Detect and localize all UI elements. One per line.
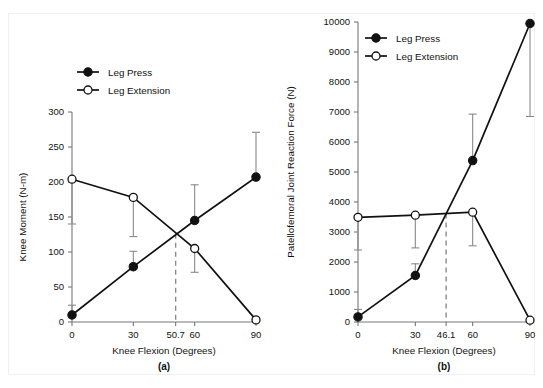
- x-axis-title: Knee Flexion (Degrees): [392, 345, 495, 356]
- filled-circle-marker: [354, 313, 362, 321]
- series-line-2: [72, 179, 256, 320]
- filled-circle-marker: [526, 19, 534, 27]
- y-tick-label: 4000: [329, 196, 350, 207]
- y-tick-label: 7000: [329, 106, 350, 117]
- open-circle-marker: [84, 86, 92, 94]
- filled-circle-marker: [468, 156, 476, 164]
- y-tick-label: 2000: [329, 256, 350, 267]
- x-tick-label: 90: [251, 329, 262, 340]
- x-tick-label: 46.1: [437, 329, 456, 340]
- series-line-1: [72, 177, 256, 315]
- y-tick-label: 9000: [329, 46, 350, 57]
- filled-circle-marker: [372, 34, 380, 42]
- y-tick-label: 1000: [329, 286, 350, 297]
- chart-panel-a: 05010015020025030003050.76090Knee Flexio…: [0, 0, 272, 388]
- panel-label: (b): [438, 361, 451, 372]
- open-circle-marker: [252, 316, 260, 324]
- y-tick-label: 10000: [324, 16, 350, 27]
- y-tick-label: 0: [345, 316, 350, 327]
- y-tick-label: 200: [48, 176, 64, 187]
- y-tick-label: 5000: [329, 166, 350, 177]
- open-circle-marker: [354, 213, 362, 221]
- filled-circle-marker: [252, 173, 260, 181]
- y-tick-label: 250: [48, 141, 64, 152]
- y-tick-label: 6000: [329, 136, 350, 147]
- x-tick-label: 30: [410, 329, 421, 340]
- filled-circle-marker: [84, 68, 92, 76]
- figure-container: 05010015020025030003050.76090Knee Flexio…: [0, 0, 543, 388]
- series-line-2: [358, 212, 530, 320]
- y-tick-label: 100: [48, 246, 64, 257]
- x-axis-title: Knee Flexion (Degrees): [112, 345, 215, 356]
- y-axis-title: Patellofemoral Joint Reaction Force (N): [285, 86, 296, 258]
- x-tick-label: 90: [525, 329, 536, 340]
- filled-circle-marker: [129, 263, 137, 271]
- open-circle-marker: [372, 52, 380, 60]
- x-tick-label: 60: [467, 329, 478, 340]
- x-tick-label: 50.7: [166, 329, 185, 340]
- y-axis-title: Knee Moment (N-m): [17, 173, 28, 262]
- y-tick-label: 300: [48, 106, 64, 117]
- x-tick-label: 0: [69, 329, 74, 340]
- panel-label: (a): [158, 361, 170, 372]
- open-circle-marker: [411, 211, 419, 219]
- open-circle-marker: [191, 245, 199, 253]
- open-circle-marker: [129, 193, 137, 201]
- y-tick-label: 3000: [329, 226, 350, 237]
- y-tick-label: 50: [53, 281, 64, 292]
- x-tick-label: 30: [128, 329, 139, 340]
- open-circle-marker: [68, 175, 76, 183]
- filled-circle-marker: [411, 271, 419, 279]
- x-tick-label: 0: [355, 329, 360, 340]
- y-tick-label: 0: [59, 316, 64, 327]
- y-tick-label: 8000: [329, 76, 350, 87]
- x-tick-label: 60: [189, 329, 200, 340]
- legend-label: Leg Press: [108, 67, 152, 78]
- legend-label: Leg Press: [396, 33, 440, 44]
- open-circle-marker: [526, 316, 534, 324]
- open-circle-marker: [469, 208, 477, 216]
- chart-panel-b: 0100020003000400050006000700080009000100…: [272, 0, 543, 388]
- filled-circle-marker: [190, 216, 198, 224]
- legend-label: Leg Extension: [396, 51, 458, 62]
- legend-label: Leg Extension: [108, 85, 170, 96]
- filled-circle-marker: [68, 311, 76, 319]
- panel-a-svg: 05010015020025030003050.76090Knee Flexio…: [0, 0, 272, 388]
- panel-b-svg: 0100020003000400050006000700080009000100…: [272, 0, 543, 388]
- y-tick-label: 150: [48, 211, 64, 222]
